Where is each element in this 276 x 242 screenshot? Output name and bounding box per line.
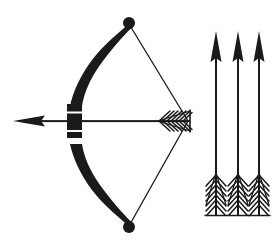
grip-separator-bottom bbox=[66, 130, 83, 132]
upper-tip-knob bbox=[123, 17, 135, 29]
lower-tip-knob bbox=[123, 221, 135, 233]
grip-separator-top bbox=[66, 112, 83, 114]
bow-and-arrow-svg bbox=[0, 0, 276, 242]
illustration-canvas bbox=[0, 0, 276, 242]
